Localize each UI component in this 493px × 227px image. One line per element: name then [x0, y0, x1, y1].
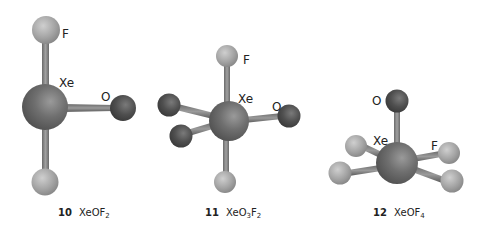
label-xe: Xe [238, 92, 253, 106]
label-xe: Xe [59, 76, 74, 90]
atom-fluorine-lower-right [441, 170, 464, 193]
bond-xe-o-left-upper [176, 104, 214, 119]
label-o: O [372, 94, 381, 108]
atom-fluorine-top [32, 16, 60, 44]
molecule-11-xeo3f2: F Xe O 11 XeO3F2 [158, 45, 301, 220]
caption-formula: XeOF [79, 207, 105, 218]
atom-xenon [209, 101, 249, 141]
caption-subscript-2: 2 [257, 212, 261, 220]
caption-10: 10 XeOF2 [58, 207, 110, 220]
molecular-structures-diagram: F Xe O 10 XeOF2 F Xe O 11 XeO3F2 [0, 0, 493, 227]
atom-oxygen-left-lower [170, 125, 193, 148]
bond-xe-f-lower-left [348, 165, 381, 176]
label-f: F [431, 139, 438, 153]
label-o: O [101, 90, 110, 104]
atom-xenon [376, 142, 418, 184]
atom-fluorine-top [216, 45, 238, 67]
atom-fluorine-bottom [214, 171, 236, 193]
caption-subscript: 4 [420, 212, 425, 220]
molecule-12-xeof4: O Xe F 12 XeOF4 [329, 90, 464, 221]
caption-number: 11 [205, 207, 219, 218]
label-f: F [62, 27, 69, 41]
caption-subscript: 2 [105, 212, 109, 220]
caption-11: 11 XeO3F2 [205, 207, 261, 220]
bond-xe-o [62, 104, 114, 112]
bond-xe-o-right [244, 113, 282, 123]
caption-12: 12 XeOF4 [373, 207, 425, 220]
atom-oxygen [110, 95, 136, 121]
label-xe: Xe [373, 134, 388, 148]
atom-fluorine-upper-left [345, 135, 367, 157]
atom-fluorine-bottom [32, 169, 59, 196]
bond-xe-f-bottom [223, 138, 229, 176]
atom-oxygen-left-upper [158, 94, 181, 117]
atom-fluorine-upper-right [438, 142, 460, 164]
atom-fluorine-lower-left [329, 162, 352, 185]
molecule-10-xeof2: F Xe O 10 XeOF2 [22, 16, 136, 220]
caption-number: 12 [373, 207, 387, 218]
label-f: F [243, 53, 250, 67]
atom-xenon [22, 84, 68, 130]
bond-xe-o-top [394, 110, 400, 146]
caption-formula-part1: XeO [226, 207, 247, 218]
atom-oxygen-top [386, 90, 409, 113]
caption-number: 10 [58, 207, 72, 218]
caption-formula: XeOF [394, 207, 420, 218]
label-o: O [272, 100, 281, 114]
bond-xe-f-top [224, 64, 230, 106]
